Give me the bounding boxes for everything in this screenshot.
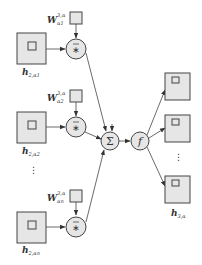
sum-symbol: Σ xyxy=(106,135,114,148)
output-map-n xyxy=(165,176,190,203)
conv-op-symbol-2: ∗ xyxy=(72,123,80,133)
input-map-1 xyxy=(17,33,46,64)
input-map-n xyxy=(17,212,46,243)
weight-label-1: W3,αα1 xyxy=(47,14,69,25)
input-map-2 xyxy=(17,112,46,143)
weight-symbol: W xyxy=(47,193,57,203)
weight-subscript: αn xyxy=(57,197,64,206)
weight-symbol: W xyxy=(47,15,57,25)
conv-op-symbol-n: ∗ xyxy=(72,223,80,233)
output-map-1 xyxy=(165,73,190,100)
output-subscript: 3,α xyxy=(178,213,186,219)
input-subscript: 2,αn xyxy=(29,250,40,256)
conv-op-symbol-1: ∗ xyxy=(72,45,80,55)
weight-label-n: W3,ααn xyxy=(47,192,69,203)
kernel-1 xyxy=(70,12,82,24)
kernel-2 xyxy=(70,90,82,102)
input-label-2: h2,α2 xyxy=(22,147,40,159)
input-ellipsis: ⋮ xyxy=(29,168,38,172)
weight-symbol: W xyxy=(47,93,57,103)
input-label-1: h2,α1 xyxy=(22,68,40,80)
output-label: h3,α xyxy=(171,209,186,221)
output-ellipsis: ⋮ xyxy=(174,155,183,159)
input-subscript: 2,α2 xyxy=(29,151,40,157)
output-map-2 xyxy=(165,115,190,142)
weight-label-2: W3,αα2 xyxy=(47,92,69,103)
kernel-n xyxy=(70,190,82,202)
input-label-n: h2,αn xyxy=(22,246,40,258)
input-subscript: 2,α1 xyxy=(29,72,40,78)
diagram-canvas: ∗ ∗ ∗ Σ f xyxy=(0,0,202,265)
weight-subscript: α2 xyxy=(57,97,64,106)
weight-subscript: α1 xyxy=(57,19,64,28)
